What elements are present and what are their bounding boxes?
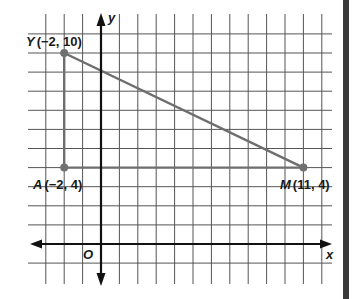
coordinate-grid-figure: y x O Y(−2, 10) A(−2, 4) M(11, 4) (0, 0, 352, 299)
point-a-dot-icon (60, 164, 68, 172)
point-a-label: A(−2, 4) (32, 177, 82, 192)
point-y-label: Y(−2, 10) (26, 34, 82, 49)
y-axis-down-arrow-icon (97, 273, 106, 286)
page-edge-bar (343, 0, 349, 299)
point-y-dot-icon (60, 49, 68, 57)
point-m-label: M(11, 4) (280, 177, 330, 192)
point-m-dot-icon (299, 164, 307, 172)
y-axis-up-arrow-icon (97, 13, 106, 26)
y-axis-label: y (107, 10, 116, 25)
x-axis-label: x (325, 247, 334, 262)
x-axis (30, 240, 332, 249)
origin-label: O (83, 247, 93, 262)
x-axis-left-arrow-icon (30, 240, 42, 249)
